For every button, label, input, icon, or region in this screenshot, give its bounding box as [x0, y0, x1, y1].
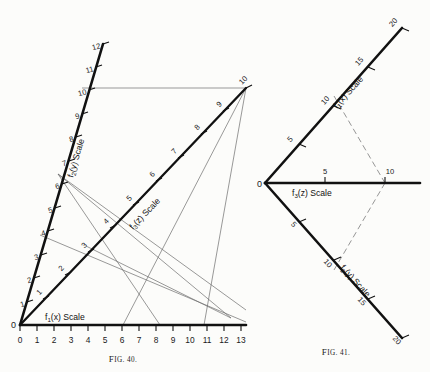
fig40-construction-lines [40, 88, 246, 325]
fig41-index-line-upper [334, 96, 385, 183]
fig40-z-label: 1 [34, 288, 43, 297]
fig40-z-label: 4 [101, 217, 110, 226]
fig41-f2y-axis [265, 183, 402, 338]
fig40-x-label: 0 [18, 335, 23, 345]
construction-line-b [58, 174, 246, 310]
fig41-horiz-label: 10 [386, 167, 394, 176]
fig40-y-label: 6 [54, 181, 61, 191]
fig41-origin-label: 0 [257, 179, 262, 189]
fig41-upper-label: 10 [319, 94, 331, 106]
fig40-y-label: 4 [40, 228, 47, 238]
fig41-lower-label: 5 [289, 220, 299, 229]
fig40-origin-label: 0 [11, 320, 16, 330]
construction-line-a [58, 174, 160, 325]
fig40-x-label: 11 [203, 335, 212, 345]
fig41-f2y-scale-label: f2(y) Scale [338, 263, 373, 300]
fig41-index-line-lower [334, 183, 385, 270]
fig41-f1x-tick-labels: 5 10 15 20 [285, 16, 399, 144]
fig40-x-label: 7 [137, 335, 142, 345]
fig41-upper-label: 15 [353, 55, 365, 67]
construction-line-f [204, 88, 246, 325]
fig41-f1x-scale-label: f1(x) Scale [331, 74, 366, 111]
fig41-f3z-tick-labels: 5 10 [323, 167, 394, 176]
figure-sheet: 0 1 2 3 4 5 6 7 8 9 10 11 12 13 [0, 0, 430, 372]
fig40-f1x-scale-label: f1(x) Scale [45, 312, 85, 323]
fig40-y-label: 2 [26, 275, 33, 285]
fig40-f3z-tick-labels: 1 2 3 4 5 6 7 8 9 10 [34, 74, 249, 297]
fig41-horiz-label: 5 [323, 167, 327, 176]
fig40-y-label: 9 [74, 111, 81, 121]
fig40-y-label: 1 [19, 299, 26, 309]
fig40-x-label: 8 [154, 335, 159, 345]
fig40-x-label: 6 [120, 335, 125, 345]
nomogram-svg: 0 1 2 3 4 5 6 7 8 9 10 11 12 13 [0, 0, 430, 372]
fig40-caption: FIG. 40. [109, 354, 137, 364]
figure-41: 5 10 15 20 5 10 5 10 15 20 0 [257, 16, 420, 357]
fig41-upper-label: 5 [285, 135, 295, 144]
fig40-z-label: 10 [237, 74, 249, 86]
fig40-y-label: 3 [33, 252, 40, 262]
fig40-z-label: 6 [147, 170, 156, 179]
fig40-z-label: 5 [124, 194, 133, 203]
fig40-x-label: 5 [103, 335, 108, 345]
fig40-x-label: 3 [69, 335, 74, 345]
fig41-caption: FIG. 41. [322, 347, 350, 357]
fig40-z-label: 3 [79, 241, 88, 250]
fig40-x-label: 13 [236, 335, 246, 345]
fig40-z-label: 8 [192, 123, 201, 132]
fig41-f2y-tick-labels: 5 10 15 20 [289, 220, 403, 347]
fig40-z-label: 2 [56, 264, 65, 273]
fig41-upper-label: 20 [387, 16, 399, 28]
fig40-x-label: 10 [185, 335, 195, 345]
fig40-y-label: 10 [77, 87, 88, 98]
fig40-x-label: 12 [219, 335, 229, 345]
fig41-f3z-scale-label: f3(z) Scale [292, 188, 332, 199]
figure-40: 0 1 2 3 4 5 6 7 8 9 10 11 12 13 [11, 41, 252, 364]
construction-line-d [40, 235, 246, 322]
fig40-x-label: 9 [171, 335, 176, 345]
construction-line-e [123, 88, 246, 325]
fig40-x-label: 2 [52, 335, 57, 345]
fig40-z-label: 9 [214, 100, 223, 109]
fig40-x-label: 1 [35, 335, 40, 345]
fig40-z-label: 7 [169, 147, 178, 156]
fig40-f1x-tick-labels: 0 1 2 3 4 5 6 7 8 9 10 11 12 13 [18, 335, 246, 345]
fig40-x-label: 4 [86, 335, 91, 345]
